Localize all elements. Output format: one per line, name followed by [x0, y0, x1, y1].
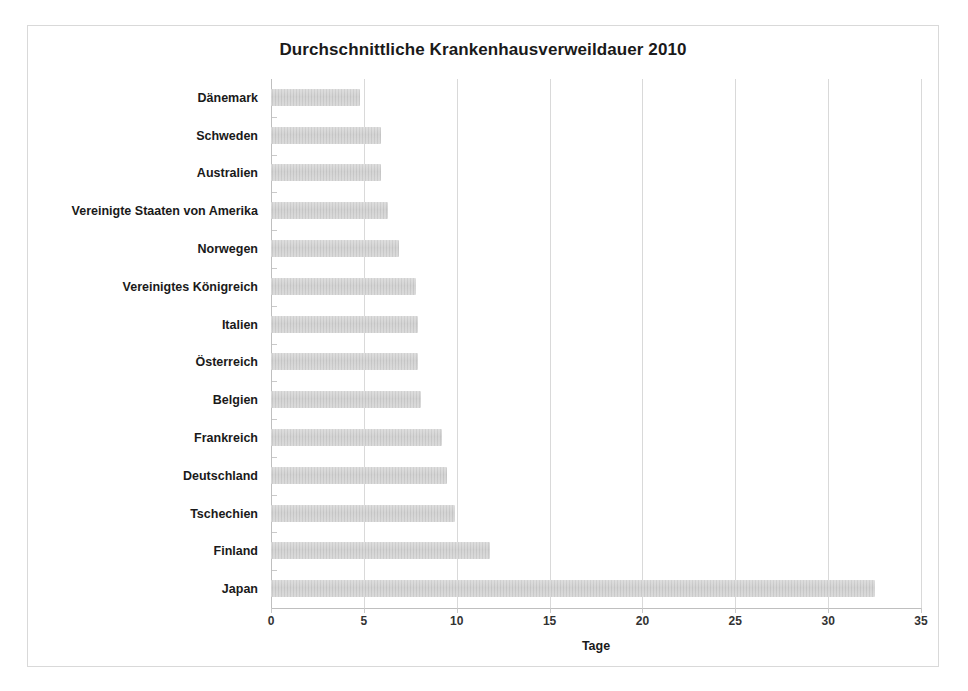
bar-row	[271, 202, 921, 219]
y-axis-category-labels: DänemarkSchwedenAustralienVereinigte Sta…	[38, 79, 266, 608]
x-tick-label: 5	[361, 614, 368, 628]
x-axis-tick-labels: 05101520253035	[271, 614, 921, 634]
x-tick-label: 30	[821, 614, 834, 628]
bar-row	[271, 164, 921, 181]
bar	[271, 164, 381, 181]
bar	[271, 391, 421, 408]
y-tick-label: Vereinigtes Königreich	[123, 280, 258, 294]
bar-row	[271, 429, 921, 446]
bar	[271, 316, 418, 333]
bar-row	[271, 542, 921, 559]
x-tick-label: 35	[914, 614, 927, 628]
x-tick-15	[550, 608, 551, 613]
x-tick-10	[457, 608, 458, 613]
plot-area	[271, 79, 921, 608]
y-tick-label: Finland	[214, 544, 258, 558]
bar-row	[271, 316, 921, 333]
y-tick-label: Japan	[222, 582, 258, 596]
chart-frame: Durchschnittliche Krankenhausverweildaue…	[27, 25, 939, 667]
x-tick-0	[271, 608, 272, 613]
bar	[271, 505, 455, 522]
y-tick-label: Schweden	[196, 129, 258, 143]
bar	[271, 542, 490, 559]
x-tick-label: 0	[268, 614, 275, 628]
x-tick-label: 15	[543, 614, 556, 628]
bar	[271, 353, 418, 370]
x-tick-20	[642, 608, 643, 613]
bar	[271, 127, 381, 144]
bar	[271, 240, 399, 257]
bar	[271, 467, 447, 484]
x-tick-label: 20	[636, 614, 649, 628]
y-tick-label: Deutschland	[183, 469, 258, 483]
bar	[271, 202, 388, 219]
y-tick-label: Frankreich	[194, 431, 258, 445]
bar-row	[271, 467, 921, 484]
x-tick-label: 25	[729, 614, 742, 628]
bar	[271, 429, 442, 446]
y-tick-label: Dänemark	[198, 91, 258, 105]
bar	[271, 278, 416, 295]
bar-row	[271, 505, 921, 522]
x-tick-label: 10	[450, 614, 463, 628]
bar-row	[271, 278, 921, 295]
y-tick-label: Australien	[197, 166, 258, 180]
x-axis-line	[271, 608, 921, 609]
bar-row	[271, 353, 921, 370]
x-tick-30	[828, 608, 829, 613]
bar-row	[271, 89, 921, 106]
y-tick-label: Italien	[222, 318, 258, 332]
bar-row	[271, 240, 921, 257]
x-axis-title: Tage	[271, 639, 921, 653]
y-tick-label: Norwegen	[198, 242, 258, 256]
x-tick-35	[921, 608, 922, 613]
bar-row	[271, 391, 921, 408]
y-tick-label: Vereinigte Staaten von Amerika	[72, 204, 258, 218]
y-tick-label: Belgien	[213, 393, 258, 407]
bar-row	[271, 127, 921, 144]
x-tick-5	[364, 608, 365, 613]
bar-series	[271, 79, 921, 608]
y-tick-label: Tschechien	[190, 507, 258, 521]
bar-row	[271, 580, 921, 597]
bar	[271, 89, 360, 106]
bar	[271, 580, 875, 597]
gridline-x-35	[921, 79, 922, 608]
y-tick-label: Österreich	[195, 355, 258, 369]
chart-title: Durchschnittliche Krankenhausverweildaue…	[28, 40, 938, 60]
x-tick-25	[735, 608, 736, 613]
